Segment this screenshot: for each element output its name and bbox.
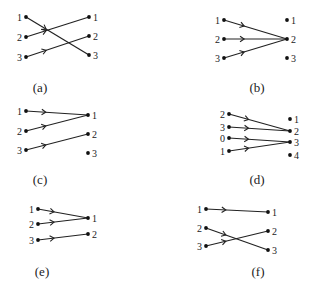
right-node-dot xyxy=(288,153,292,157)
left-node-label: 2 xyxy=(197,223,202,234)
right-node-dot xyxy=(266,229,270,233)
left-node-label: 3 xyxy=(197,241,202,252)
right-node-label: 1 xyxy=(294,114,299,125)
left-node-label: 3 xyxy=(17,145,22,156)
edge-1-to-3 xyxy=(26,17,89,55)
left-node-dot xyxy=(222,18,226,22)
panel-caption-f: (f) xyxy=(252,264,265,279)
panel-caption-a: (a) xyxy=(33,80,47,95)
panel-b: 123123(b) xyxy=(215,15,296,96)
left-node-label: 1 xyxy=(17,12,22,23)
left-node-label: 1 xyxy=(220,146,225,157)
panel-caption-b: (b) xyxy=(249,80,264,95)
left-node-dot xyxy=(227,136,231,140)
panel-caption-c: (c) xyxy=(33,172,47,187)
edge-3-to-2 xyxy=(26,36,89,57)
edge-3-to-2 xyxy=(224,39,287,58)
right-node-label: 1 xyxy=(291,15,296,26)
left-node-dot xyxy=(24,148,28,152)
edge-1-to-2 xyxy=(224,20,287,39)
left-node-dot xyxy=(24,109,28,113)
left-node-label: 3 xyxy=(215,53,220,64)
right-node-dot xyxy=(86,132,90,136)
edge-3-to-2 xyxy=(26,134,88,150)
left-node-label: 1 xyxy=(17,106,22,117)
panel-e: 12312(e) xyxy=(29,204,97,280)
left-node-dot xyxy=(36,222,40,226)
edge-3-to-2 xyxy=(206,231,268,246)
right-node-label: 1 xyxy=(272,207,277,218)
edge-2-to-1 xyxy=(38,218,88,224)
right-node-label: 2 xyxy=(92,129,97,140)
right-node-dot xyxy=(266,210,270,214)
panel-f: 123123(f) xyxy=(197,204,277,280)
left-node-label: 1 xyxy=(215,15,220,26)
panel-caption-d: (d) xyxy=(249,172,264,187)
right-node-label: 1 xyxy=(92,213,97,224)
right-node-label: 2 xyxy=(294,126,299,137)
edge-3-to-2 xyxy=(38,234,88,240)
right-node-dot xyxy=(87,53,91,57)
right-node-label: 4 xyxy=(294,150,299,161)
left-node-dot xyxy=(204,226,208,230)
panel-caption-e: (e) xyxy=(35,264,49,279)
right-node-label: 2 xyxy=(272,226,277,237)
right-node-label: 3 xyxy=(294,137,299,148)
right-node-label: 3 xyxy=(92,148,97,159)
left-node-label: 0 xyxy=(220,133,225,144)
panel-d: 23011234(d) xyxy=(220,109,299,188)
left-node-label: 2 xyxy=(29,219,34,230)
right-node-dot xyxy=(266,248,270,252)
right-node-dot xyxy=(86,113,90,117)
left-node-label: 3 xyxy=(29,235,34,246)
edge-2-to-1 xyxy=(26,115,88,131)
left-node-label: 2 xyxy=(17,126,22,137)
panel-c: 123123(c) xyxy=(17,106,97,188)
left-node-dot xyxy=(204,244,208,248)
left-node-dot xyxy=(204,207,208,211)
left-node-dot xyxy=(24,15,28,19)
right-node-label: 3 xyxy=(93,50,98,61)
panel-a: 123123(a) xyxy=(17,12,98,96)
left-node-dot xyxy=(36,238,40,242)
mapping-diagrams-figure: 123123(a) 123123(b) 123123(c) 23011234(d… xyxy=(0,0,316,297)
right-node-label: 2 xyxy=(92,229,97,240)
left-node-label: 3 xyxy=(220,122,225,133)
right-node-dot xyxy=(288,117,292,121)
right-node-dot xyxy=(285,37,289,41)
edge-1-to-1 xyxy=(206,209,268,212)
right-node-dot xyxy=(285,56,289,60)
left-node-label: 1 xyxy=(29,204,34,215)
right-node-label: 1 xyxy=(93,12,98,23)
right-node-label: 2 xyxy=(93,31,98,42)
left-node-label: 2 xyxy=(17,32,22,43)
left-node-dot xyxy=(222,56,226,60)
left-node-label: 2 xyxy=(215,34,220,45)
edge-1-to-1 xyxy=(26,111,88,115)
left-node-dot xyxy=(24,129,28,133)
right-node-dot xyxy=(86,232,90,236)
left-node-dot xyxy=(24,55,28,59)
left-node-label: 3 xyxy=(17,52,22,63)
left-node-dot xyxy=(222,37,226,41)
left-node-label: 1 xyxy=(197,204,202,215)
left-node-dot xyxy=(24,35,28,39)
right-node-dot xyxy=(285,18,289,22)
right-node-dot xyxy=(87,34,91,38)
right-node-label: 2 xyxy=(291,34,296,45)
left-node-label: 2 xyxy=(220,109,225,120)
right-node-dot xyxy=(86,216,90,220)
right-node-dot xyxy=(288,129,292,133)
edge-0-to-3 xyxy=(229,138,290,142)
left-node-dot xyxy=(227,112,231,116)
edge-2-to-1 xyxy=(26,17,89,37)
left-node-dot xyxy=(227,149,231,153)
right-node-label: 3 xyxy=(272,245,277,256)
left-node-dot xyxy=(36,207,40,211)
right-node-dot xyxy=(288,140,292,144)
left-node-dot xyxy=(227,125,231,129)
edge-1-to-3 xyxy=(229,142,290,151)
right-node-dot xyxy=(86,151,90,155)
right-node-label: 3 xyxy=(291,53,296,64)
edge-1-to-1 xyxy=(38,209,88,218)
